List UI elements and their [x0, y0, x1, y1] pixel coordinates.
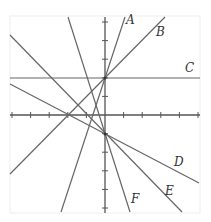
label-c: C [185, 61, 194, 75]
labels-group: ABCDEF [125, 13, 194, 206]
line-b [10, 17, 165, 174]
label-e: E [164, 184, 174, 198]
intersection-point [104, 77, 107, 80]
label-f: F [130, 192, 140, 206]
label-b: B [155, 25, 165, 39]
label-d: D [173, 155, 184, 169]
label-a: A [125, 13, 135, 27]
coordinate-diagram: ABCDEF [0, 0, 211, 222]
line-e [10, 35, 182, 212]
intersection-point [104, 133, 107, 136]
